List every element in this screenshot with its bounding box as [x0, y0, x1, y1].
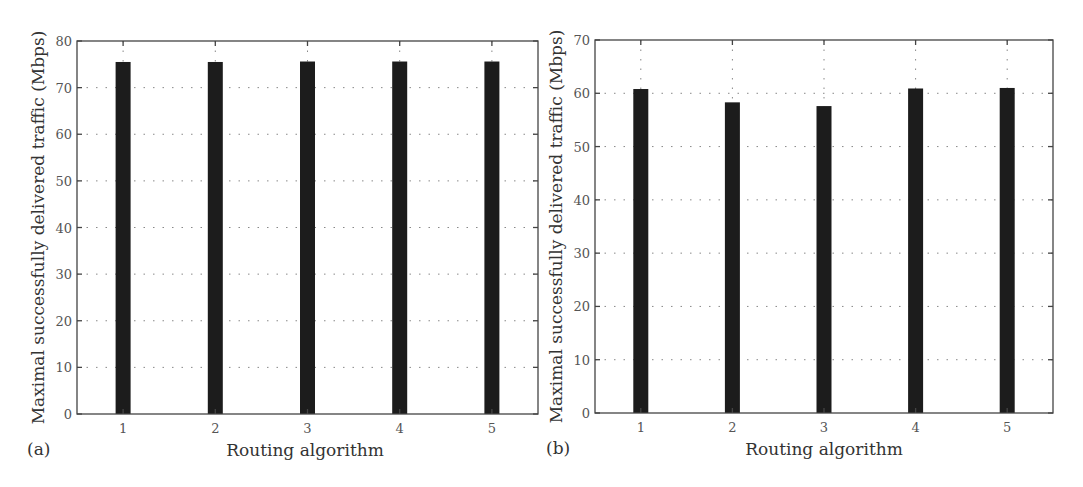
bar-5: 5: 75.6: [484, 62, 499, 414]
bar-4: 4: 75.6: [392, 62, 407, 414]
bar-1: 1: 75.5: [116, 62, 131, 414]
y-tick-label: 70: [55, 81, 72, 96]
x-tick-label: 4: [396, 421, 404, 436]
y-tick-label: 60: [55, 127, 72, 142]
x-tick-label: 1: [119, 421, 127, 436]
y-tick-label: 50: [55, 174, 72, 189]
y-tick-label: 10: [573, 353, 590, 368]
x-tick-label: 5: [1003, 420, 1011, 435]
panel-label-a: (a): [27, 439, 50, 459]
y-tick-label: 10: [55, 360, 72, 375]
x-tick-label: 4: [911, 420, 919, 435]
y-tick-label: 30: [55, 267, 72, 282]
x-tick-label: 5: [488, 421, 496, 436]
bar-2: 2: 75.5: [208, 62, 223, 414]
bar-2: 2: 58.3: [725, 102, 740, 413]
bar-1: 1: 60.8: [633, 89, 648, 413]
y-tick-label: 30: [573, 246, 590, 261]
figure-canvas: 1: 75.52: 75.53: 75.64: 75.65: 75.601020…: [0, 0, 1083, 487]
chart-panel-a: 1: 75.52: 75.53: 75.64: 75.65: 75.601020…: [27, 31, 538, 460]
bar-4: 4: 60.9: [908, 88, 923, 413]
bar-3: 3: 57.6: [817, 106, 832, 413]
y-tick-label: 70: [573, 33, 590, 48]
y-tick-label: 40: [573, 193, 590, 208]
y-tick-label: 80: [55, 34, 72, 49]
panel-label-b: (b): [546, 438, 570, 458]
x-tick-label: 2: [211, 421, 219, 436]
y-tick-label: 0: [582, 406, 590, 421]
y-axis-title: Maximal successfully delivered traffic (…: [28, 31, 48, 425]
y-tick-label: 50: [573, 140, 590, 155]
x-axis-title: Routing algorithm: [226, 440, 384, 460]
y-tick-label: 40: [55, 221, 72, 236]
x-tick-label: 3: [820, 420, 828, 435]
bar-5: 5: 61: [1000, 88, 1015, 413]
x-axis-title: Routing algorithm: [745, 439, 903, 459]
bar-3: 3: 75.6: [300, 62, 315, 414]
x-tick-label: 2: [728, 420, 736, 435]
y-tick-label: 20: [573, 299, 590, 314]
x-tick-label: 3: [303, 421, 311, 436]
y-tick-label: 0: [64, 407, 72, 422]
y-tick-label: 20: [55, 314, 72, 329]
chart-panel-b: 1: 60.82: 58.33: 57.64: 60.95: 610102030…: [546, 30, 1053, 459]
y-axis-title: Maximal successfully delivered traffic (…: [546, 30, 566, 424]
figure: 1: 75.52: 75.53: 75.64: 75.65: 75.601020…: [0, 0, 1083, 487]
x-tick-label: 1: [637, 420, 645, 435]
y-tick-label: 60: [573, 86, 590, 101]
